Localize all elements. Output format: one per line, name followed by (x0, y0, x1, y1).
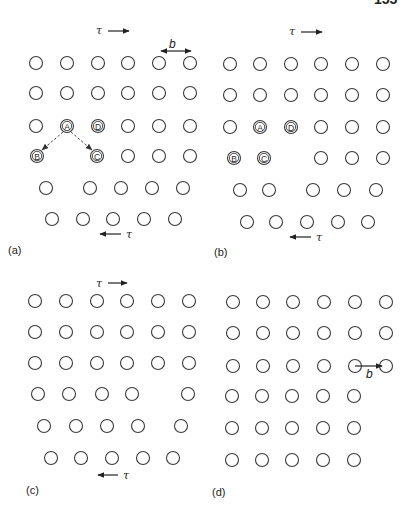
atom-circle (285, 89, 298, 102)
labeled-atom-a: A (61, 120, 74, 133)
atom-circle (107, 213, 120, 226)
atom-circle (184, 120, 197, 133)
dashed-arrow-a-to-c (71, 132, 92, 150)
atom-circle (226, 390, 239, 403)
atom-circle (106, 452, 119, 465)
labeled-atom-c: C (91, 150, 104, 163)
atom-circle (234, 184, 247, 197)
atom-circle (348, 422, 361, 435)
atom-circle (84, 182, 97, 195)
svg-text:A: A (257, 123, 263, 133)
tau-bottom-shear-stress: τ (290, 231, 323, 244)
atom-circle (227, 296, 240, 309)
atom-circle (349, 296, 362, 309)
atom-circle (377, 121, 390, 134)
atom-circle (184, 87, 197, 100)
svg-text:B: B (231, 154, 237, 164)
atom-circle (183, 326, 196, 339)
atom-circle (380, 296, 393, 309)
atom-circle (315, 89, 328, 102)
tau-top-shear-stress: τ (289, 25, 322, 38)
tau-symbol: τ (123, 469, 130, 482)
atom-circle (153, 87, 166, 100)
labeled-atom-b: B (31, 150, 44, 163)
atom-circle (132, 420, 145, 433)
atom-circle (92, 87, 105, 100)
atom-circle (96, 388, 109, 401)
atom-circle (115, 182, 128, 195)
atom-circle (61, 87, 74, 100)
atom-circle (126, 388, 139, 401)
atom-circle (346, 152, 359, 165)
atom-circle (153, 120, 166, 133)
atom-circle (332, 216, 345, 229)
atom-circle (45, 452, 58, 465)
atom-circle (315, 58, 328, 71)
panel-label: (a) (8, 244, 21, 256)
atom-circle (184, 57, 197, 70)
svg-text:C: C (261, 154, 267, 164)
burgers-label: b (169, 37, 176, 51)
atom-circle (30, 87, 43, 100)
atom-circle (346, 121, 359, 134)
atom-circle (29, 357, 42, 370)
burgers-label: b (366, 367, 373, 381)
atom-circle (182, 388, 195, 401)
labeled-atom-b: B (228, 152, 241, 165)
dashed-arrow-a-to-b (42, 132, 63, 150)
atom-circle (257, 296, 270, 309)
atom-circle (61, 57, 74, 70)
atom-circle (286, 390, 299, 403)
atom-circle (315, 121, 328, 134)
atom-circle (307, 184, 320, 197)
atom-circle (183, 295, 196, 308)
atom-circle (301, 216, 314, 229)
atom-circle (30, 120, 43, 133)
atom-circle (60, 357, 73, 370)
atom-circle (256, 422, 269, 435)
atom-circle (122, 87, 135, 100)
tau-symbol: τ (289, 25, 296, 38)
panels-container: ADBCττb(a)ADBCττ(b)ττ(c)b(d) (8, 24, 393, 498)
atom-circle (254, 58, 267, 71)
atom-circle (175, 420, 188, 433)
svg-text:D: D (288, 123, 294, 133)
atom-circle (227, 360, 240, 373)
labeled-atom-a: A (254, 121, 267, 134)
atom-circle (138, 213, 151, 226)
svg-text:D: D (95, 122, 101, 132)
atom-circle (287, 327, 300, 340)
atom-circle (152, 357, 165, 370)
atom-circle (286, 454, 299, 467)
atom-circle (63, 388, 76, 401)
atom-circle (183, 357, 196, 370)
atom-circle (70, 420, 83, 433)
atom-circle (122, 120, 135, 133)
atom-circle (153, 57, 166, 70)
page-number: 155 (374, 0, 398, 7)
svg-text:C: C (94, 152, 100, 162)
panel-label: (c) (26, 484, 39, 496)
atom-circle (101, 420, 114, 433)
tau-top-shear-stress: τ (96, 277, 127, 290)
atom-circle (377, 152, 390, 165)
atom-circle (256, 454, 269, 467)
atom-circle (318, 296, 331, 309)
atom-circle (184, 150, 197, 163)
atom-circle (75, 452, 88, 465)
dislocation-figure: 155 ADBCττb(a)ADBCττ(b)ττ(c)b(d) (0, 0, 412, 520)
labeled-atom-d: D (285, 121, 298, 134)
atom-circle (169, 213, 182, 226)
atom-circle (346, 58, 359, 71)
atom-circle (317, 390, 330, 403)
atom-circle (92, 57, 105, 70)
panel-a: ADBCττb(a) (8, 24, 197, 256)
atom-circle (286, 422, 299, 435)
atom-circle (224, 58, 237, 71)
atom-circle (38, 420, 51, 433)
atom-circle (146, 182, 159, 195)
atom-circle (91, 357, 104, 370)
atom-circle (256, 390, 269, 403)
atom-circle (348, 454, 361, 467)
atom-circle (317, 454, 330, 467)
